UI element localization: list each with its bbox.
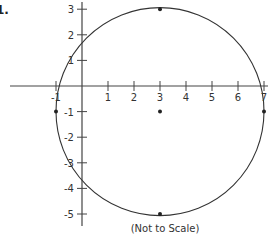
x-tick-label: 4 bbox=[183, 92, 189, 103]
x-ticks: -11234567 bbox=[51, 81, 267, 103]
point-center bbox=[158, 110, 162, 114]
y-tick-label: 3 bbox=[68, 4, 74, 15]
y-tick-label: -2 bbox=[64, 132, 74, 143]
x-tick-label: 5 bbox=[209, 92, 215, 103]
y-tick-label: -4 bbox=[64, 183, 74, 194]
y-tick-label: -1 bbox=[64, 107, 74, 118]
y-tick-label: -5 bbox=[64, 209, 74, 220]
y-tick-label: 2 bbox=[68, 30, 74, 41]
coordinate-diagram: 1. -11234567 321-1-2-3-4-5 (Not to Scale… bbox=[0, 0, 268, 236]
point-left bbox=[54, 110, 58, 114]
point-top bbox=[158, 7, 162, 11]
point-right bbox=[262, 110, 266, 114]
y-ticks: 321-1-2-3-4-5 bbox=[64, 4, 87, 220]
point-bottom bbox=[158, 212, 162, 216]
caption-not-to-scale: (Not to Scale) bbox=[131, 223, 200, 234]
axes: -11234567 321-1-2-3-4-5 bbox=[10, 2, 268, 226]
x-tick-label: 6 bbox=[235, 92, 241, 103]
x-tick-label: 2 bbox=[131, 92, 137, 103]
question-number: 1. bbox=[0, 3, 9, 17]
x-tick-label: 1 bbox=[105, 92, 111, 103]
x-tick-label: 3 bbox=[157, 92, 163, 103]
